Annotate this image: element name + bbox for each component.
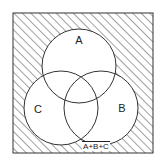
venn-svg [0,0,162,165]
set-a-label: A [75,35,82,46]
set-c-label: C [34,104,42,115]
venn-diagram: A B C A+B+C [0,0,162,165]
complement-label: A+B+C [82,141,110,151]
set-b-label: B [118,103,125,114]
